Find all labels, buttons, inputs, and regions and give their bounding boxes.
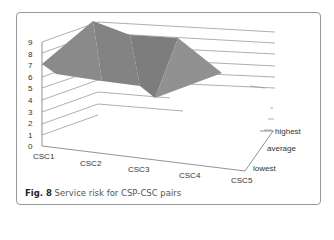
svg-text:3: 3 [28,108,33,117]
svg-text:CSC1: CSC1 [33,152,55,161]
svg-text:CSC2: CSC2 [80,159,102,168]
svg-text:average: average [267,144,296,153]
svg-text:lowest: lowest [253,164,276,173]
svg-text:6: 6 [28,73,33,82]
figure-caption-text: Service risk for CSP-CSC pairs [52,188,181,198]
svg-text:0: 0 [28,142,33,151]
svg-text:9: 9 [28,38,33,47]
svg-text:7: 7 [28,61,33,70]
svg-text:CSC5: CSC5 [231,176,253,185]
z-tick-labels: 9 8 7 6 5 4 3 2 1 0 [28,38,33,151]
svg-text:5: 5 [28,84,33,93]
x-tick-labels: CSC1 CSC2 CSC3 CSC4 CSC5 [33,152,253,185]
depth-tick-labels: highest average lowest [253,127,302,173]
svg-text:2: 2 [28,119,33,128]
svg-text:8: 8 [28,50,33,59]
svg-text:highest: highest [275,127,302,136]
svg-text:1: 1 [28,131,33,140]
figure-label: Fig. 8 [25,188,52,198]
figure-caption: Fig. 8 Service risk for CSP-CSC pairs [25,188,181,198]
svg-text:4: 4 [28,96,33,105]
svg-text:CSC4: CSC4 [179,171,201,180]
svg-text:CSC3: CSC3 [128,165,150,174]
